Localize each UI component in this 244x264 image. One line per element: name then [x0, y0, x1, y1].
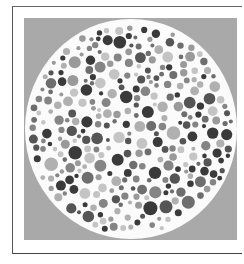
color-test-plate [25, 19, 237, 239]
dot-pattern [25, 19, 237, 239]
